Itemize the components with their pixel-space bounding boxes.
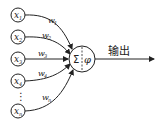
neuron-node: Σ φ	[69, 46, 95, 72]
input-node-x2: x 2	[11, 30, 25, 44]
svg-text:2: 2	[18, 37, 22, 43]
weight-label-w2: w 2	[42, 31, 51, 41]
input-node-x1: x 1	[11, 8, 25, 22]
input-node-x4: x 4	[11, 74, 25, 88]
ellipsis: ⋮	[16, 91, 26, 102]
weight-label-w4: w 4	[38, 69, 47, 79]
svg-text:2: 2	[47, 35, 51, 41]
weight-label-wn: w n	[42, 93, 51, 103]
svg-text:4: 4	[43, 73, 47, 79]
weight-label-w3: w 3	[38, 49, 47, 59]
sum-symbol: Σ	[73, 54, 79, 65]
svg-text:n: n	[48, 97, 51, 103]
svg-text:4: 4	[18, 81, 22, 87]
output-label: 输出	[108, 44, 130, 58]
svg-text:1: 1	[19, 15, 22, 21]
svg-text:3: 3	[19, 59, 22, 65]
svg-text:1: 1	[54, 20, 57, 26]
weight-label-w1: w 1	[48, 16, 57, 26]
input-node-xn: x n	[11, 104, 25, 118]
input-node-x3: x 3	[11, 52, 25, 66]
svg-text:n: n	[19, 111, 22, 117]
neuron-diagram: x 1 x 2 x 3 x 4 ⋮ x n w 1 w 2 w 3	[0, 0, 161, 127]
svg-text:3: 3	[44, 53, 47, 59]
activation-symbol: φ	[84, 54, 91, 65]
